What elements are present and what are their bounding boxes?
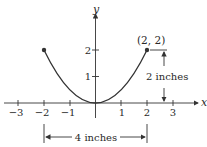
y-axis-label: y: [92, 3, 100, 16]
width-dimension-label: 4 inches: [75, 132, 117, 143]
x-tick-labels: −3 −2 −1 1 2 3: [9, 107, 177, 118]
point-label: (2, 2): [137, 34, 165, 46]
svg-text:1: 1: [119, 107, 125, 118]
height-dimension-label: 2 inches: [146, 71, 188, 82]
svg-text:2: 2: [144, 107, 150, 118]
svg-text:−2: −2: [35, 107, 50, 118]
right-endpoint: [145, 48, 149, 52]
svg-text:1: 1: [85, 71, 91, 82]
svg-text:−3: −3: [9, 107, 24, 118]
x-axis-label: x: [201, 96, 207, 109]
svg-text:−1: −1: [61, 107, 76, 118]
svg-text:3: 3: [170, 107, 176, 118]
parabola-diagram: x y −3 −2 −1 1 2 3 1 2 (2, 2) 2 inches: [0, 0, 207, 147]
y-tick-labels: 1 2: [85, 45, 91, 82]
svg-text:2: 2: [85, 45, 91, 56]
left-endpoint: [42, 48, 46, 52]
